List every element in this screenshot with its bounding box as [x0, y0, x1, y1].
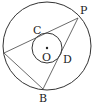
label-P: P [80, 4, 88, 17]
outer-circle [3, 2, 91, 90]
label-O: O [42, 51, 51, 64]
label-B: B [39, 92, 47, 105]
label-C: C [33, 24, 41, 37]
label-D: D [63, 53, 72, 66]
center-point-O [46, 47, 48, 49]
geometry-figure: P C O D B [0, 0, 98, 106]
